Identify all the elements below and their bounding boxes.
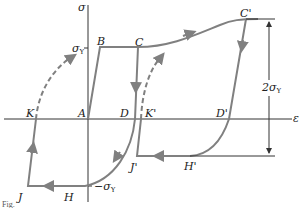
point-b-label: B — [97, 36, 105, 47]
sigma-axis-label: σ — [78, 2, 86, 13]
sigma-y-label: σY — [72, 43, 84, 56]
point-j-label: J — [18, 192, 22, 203]
figure-caption: Fig. — [2, 200, 15, 208]
arrow-cprime-dprime — [242, 40, 243, 47]
arrow-loading — [183, 33, 191, 36]
arrow-d-h — [116, 152, 120, 158]
arrow-k-dashed — [66, 57, 72, 61]
point-h-prime-label: H' — [184, 161, 197, 172]
unloading-path-2 — [137, 19, 246, 156]
hysteresis-diagram — [0, 0, 301, 208]
dimension-label: 2σY — [262, 81, 281, 96]
neg-sigma-y-label: −σY — [94, 181, 115, 194]
epsilon-axis-label: ε — [293, 113, 299, 124]
arrow-j-k — [32, 147, 33, 153]
point-c-prime-label: C' — [240, 8, 251, 19]
point-a-label: A — [78, 108, 86, 119]
point-k-prime-label: K' — [145, 108, 156, 119]
point-k-label: K — [26, 108, 34, 119]
point-d-label: D — [120, 108, 129, 119]
point-h-label: H — [64, 192, 74, 203]
point-d-prime-label: D' — [216, 108, 228, 119]
reloading-dashed-1 — [36, 58, 70, 119]
point-c-label: C — [135, 37, 143, 48]
point-j-prime-label: J' — [130, 162, 137, 173]
